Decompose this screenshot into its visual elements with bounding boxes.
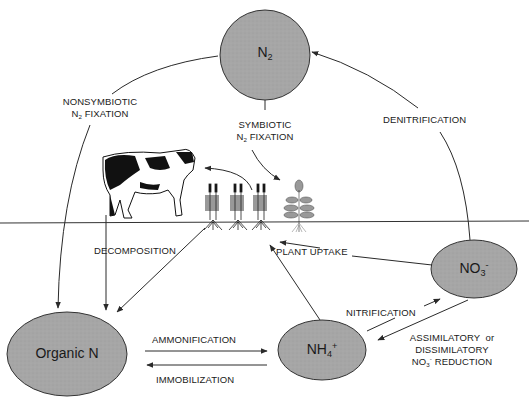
nh4-label-sup: +: [332, 341, 337, 351]
arrow-symbiotic-bottom: [252, 150, 280, 180]
denitrification-label: DENITRIFICATION: [383, 114, 483, 126]
no3-label-text: NO: [459, 260, 480, 276]
ground-line: [0, 221, 529, 223]
arrow-nonsymbiotic-bottom: [58, 125, 90, 308]
reduction-line2: DISSIMILATORY: [392, 344, 512, 356]
immobilization-text: IMMOBILIZATION: [156, 374, 234, 385]
arrow-nitrification-a: [367, 318, 395, 331]
n2-label: N2: [245, 44, 285, 60]
arrow-nonsymbiotic-top: [112, 56, 218, 94]
leafy-plant-illustration: [284, 180, 314, 232]
reduction-no: NO: [412, 356, 426, 367]
reduction-line1: ASSIMILATORY or: [392, 332, 512, 344]
arrow-plants-to-cow: [205, 168, 252, 190]
plant-uptake-label: PLANT UPTAKE: [276, 246, 356, 258]
immobilization-label: IMMOBILIZATION: [156, 374, 256, 386]
reduction-text: REDUCTION: [432, 356, 492, 367]
ammonification-text: AMMONIFICATION: [152, 334, 236, 345]
decomposition-label: DECOMPOSITION: [94, 245, 184, 257]
nh4-label-text: NH: [307, 341, 327, 357]
symbiotic-line2: N2 FIXATION: [215, 131, 315, 143]
arrow-denitrification-top: [312, 52, 418, 108]
reduction-label: ASSIMILATORY or DISSIMILATORY NO3- REDUC…: [392, 332, 512, 368]
symbiotic-line1: SYMBIOTIC: [215, 119, 315, 131]
symbiotic-fixation: FIXATION: [247, 131, 294, 142]
nitrification-label: NITRIFICATION: [346, 307, 426, 319]
decomposition-text: DECOMPOSITION: [94, 245, 176, 256]
legume-plants-illustration: [204, 184, 270, 230]
no3-label-sup: -: [486, 260, 489, 270]
symbiotic-fixation-label: SYMBIOTIC N2 FIXATION: [215, 119, 315, 143]
nh4-label: NH4+: [297, 341, 347, 357]
arrow-nitrification-b: [424, 299, 440, 306]
reduction-line3: NO3- REDUCTION: [392, 356, 512, 368]
organic-n-label: Organic N: [17, 345, 117, 361]
arrow-denitrification-bottom: [440, 132, 470, 240]
plant-uptake-text: PLANT UPTAKE: [276, 246, 348, 257]
no3-label: NO3-: [449, 260, 499, 276]
n2-label-sub: 2: [268, 52, 273, 62]
nonsymbiotic-fixation: FIXATION: [82, 108, 129, 119]
organic-n-label-text: Organic N: [35, 345, 98, 361]
arrow-plant-decomposition: [117, 228, 205, 312]
ammonification-label: AMMONIFICATION: [152, 334, 252, 346]
nonsymbiotic-line2: N2 FIXATION: [52, 108, 148, 120]
n2-label-text: N: [257, 44, 267, 60]
nonsymbiotic-line1: NONSYMBIOTIC: [52, 96, 148, 108]
nonsymbiotic-fixation-label: NONSYMBIOTIC N2 FIXATION: [52, 96, 148, 120]
nitrification-text: NITRIFICATION: [346, 307, 416, 318]
arrow-plant-uptake-no3: [352, 256, 432, 265]
cow-illustration: [103, 149, 195, 218]
denitrification-text: DENITRIFICATION: [383, 114, 466, 125]
